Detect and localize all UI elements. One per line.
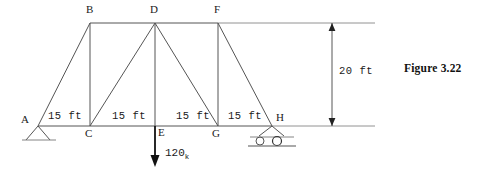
load-magnitude: 120 [165, 147, 185, 159]
node-label-a: A [21, 114, 29, 125]
node-label-h: H [276, 112, 284, 123]
figure-caption: Figure 3.22 [404, 62, 462, 74]
span-label-3: 15 ft [176, 111, 210, 122]
load-label: 120k [165, 148, 189, 162]
roller-support [248, 126, 296, 146]
height-dimension-line [329, 23, 336, 126]
node-label-f: F [214, 4, 220, 15]
node-label-e: E [158, 127, 165, 138]
node-label-c: C [85, 128, 92, 139]
pin-support [22, 126, 56, 140]
node-label-b: B [86, 4, 93, 15]
node-label-d: D [150, 4, 158, 15]
truss-figure: A B C D E F G H 15 ft 15 ft 15 ft 15 ft … [0, 0, 479, 178]
height-dimension-label: 20 ft [339, 66, 373, 77]
node-label-g: G [212, 128, 220, 139]
span-label-2: 15 ft [112, 111, 146, 122]
span-label-1: 15 ft [48, 111, 82, 122]
load-unit: k [185, 153, 190, 161]
truss-drawing [0, 0, 479, 178]
span-label-4: 15 ft [228, 111, 262, 122]
